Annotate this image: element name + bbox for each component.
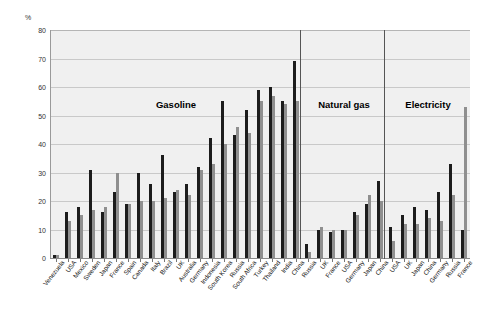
bar-light xyxy=(284,104,287,258)
bar-dark xyxy=(365,204,368,258)
bar-dark xyxy=(221,101,224,258)
y-axis-tick-label: 60 xyxy=(22,84,46,91)
y-axis-tick-label: 20 xyxy=(22,198,46,205)
bar-light xyxy=(92,210,95,258)
bar-light xyxy=(428,218,431,258)
y-axis-tick-label: 70 xyxy=(22,56,46,63)
bar-dark xyxy=(65,212,68,258)
bar-light xyxy=(140,201,143,258)
bar-dark xyxy=(101,212,104,258)
bar-light xyxy=(128,204,131,258)
bar-light xyxy=(464,107,467,258)
bar-dark xyxy=(305,244,308,258)
bar-light xyxy=(260,101,263,258)
x-axis-label: USA xyxy=(388,259,402,274)
bars-container xyxy=(50,30,470,258)
section-divider xyxy=(384,30,385,259)
bar-dark xyxy=(113,192,116,258)
x-axis-label: Venezuela xyxy=(42,259,66,287)
bar-light xyxy=(344,230,347,259)
section-title-natural-gas: Natural gas xyxy=(318,99,370,110)
x-axis-labels: VenezuelaUSAMexicoSwedenJapanFranceSpain… xyxy=(50,259,478,315)
bar-dark xyxy=(413,207,416,258)
bar-dark xyxy=(329,232,332,258)
bar-dark xyxy=(233,135,236,258)
bar-dark xyxy=(125,204,128,258)
bar-dark xyxy=(209,138,212,258)
bar-dark xyxy=(353,212,356,258)
y-axis-tick-label: 30 xyxy=(22,170,46,177)
bar-dark xyxy=(161,155,164,258)
bar-dark xyxy=(293,61,296,258)
bar-chart: % 01020304050607080 VenezuelaUSAMexicoSw… xyxy=(0,0,478,315)
bar-light xyxy=(440,221,443,258)
bar-dark xyxy=(377,181,380,258)
bar-light xyxy=(332,230,335,259)
section-divider xyxy=(300,30,301,259)
bar-dark xyxy=(401,215,404,258)
section-title-gasoline: Gasoline xyxy=(156,99,196,110)
bar-dark xyxy=(341,230,344,259)
bar-light xyxy=(116,173,119,259)
section-title-electricity: Electricity xyxy=(405,99,450,110)
bar-light xyxy=(104,207,107,258)
bar-light xyxy=(416,224,419,258)
bar-dark xyxy=(389,227,392,258)
y-axis: 01020304050607080 xyxy=(16,30,46,258)
bar-light xyxy=(404,224,407,258)
bar-light xyxy=(164,198,167,258)
y-axis-unit-label: % xyxy=(25,14,31,21)
y-axis-tick-label: 40 xyxy=(22,141,46,148)
bar-dark xyxy=(281,101,284,258)
bar-light xyxy=(380,201,383,258)
bar-light xyxy=(68,221,71,258)
bar-dark xyxy=(149,184,152,258)
bar-dark xyxy=(317,230,320,259)
bar-light xyxy=(392,241,395,258)
bar-light xyxy=(320,227,323,258)
bar-light xyxy=(188,195,191,258)
y-axis-tick-label: 50 xyxy=(22,113,46,120)
y-axis-tick-label: 80 xyxy=(22,27,46,34)
bar-light xyxy=(356,215,359,258)
bar-dark xyxy=(269,87,272,258)
bar-light xyxy=(200,170,203,258)
bar-light xyxy=(212,164,215,258)
bar-dark xyxy=(185,184,188,258)
y-axis-tick-label: 10 xyxy=(22,227,46,234)
bar-light xyxy=(368,195,371,258)
bar-dark xyxy=(437,192,440,258)
bar-dark xyxy=(461,230,464,259)
bar-light xyxy=(80,215,83,258)
bar-dark xyxy=(137,173,140,259)
bar-light xyxy=(296,101,299,258)
bar-dark xyxy=(245,110,248,258)
bar-dark xyxy=(77,207,80,258)
bar-light xyxy=(152,201,155,258)
bar-dark xyxy=(197,167,200,258)
bar-dark xyxy=(449,164,452,258)
bar-light xyxy=(224,144,227,258)
bar-light xyxy=(272,96,275,258)
y-axis-tick-label: 0 xyxy=(22,255,46,262)
bar-dark xyxy=(53,255,56,258)
bar-light xyxy=(56,255,59,258)
bar-light xyxy=(308,252,311,258)
bar-light xyxy=(452,195,455,258)
bar-dark xyxy=(257,90,260,258)
bar-light xyxy=(248,133,251,258)
bar-dark xyxy=(173,192,176,258)
bar-light xyxy=(236,127,239,258)
bar-light xyxy=(176,190,179,258)
bar-dark xyxy=(425,210,428,258)
bar-dark xyxy=(89,170,92,258)
